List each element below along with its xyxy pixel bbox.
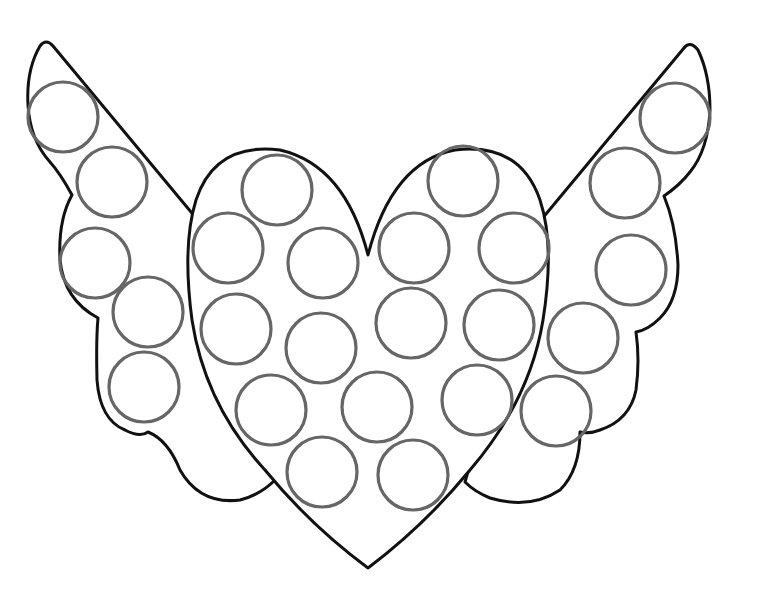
heart-with-wings-illustration: [0, 0, 764, 612]
coloring-page: [0, 0, 764, 612]
